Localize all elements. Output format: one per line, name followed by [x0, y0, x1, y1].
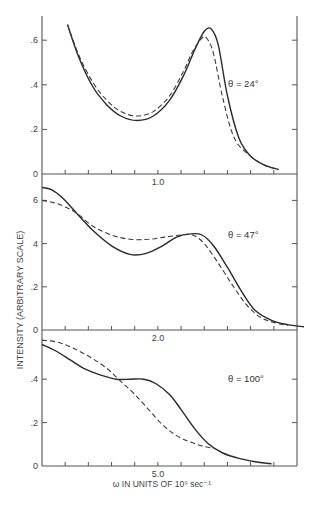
x-tick-label: 5.0: [152, 469, 165, 479]
y-tick-label: .4: [30, 80, 38, 90]
y-tick-label: 0: [33, 169, 38, 179]
y-tick-label: 0: [33, 325, 38, 335]
y-tick-label: .6: [30, 35, 38, 45]
panel-bottom: 5.00.2.4θ = 100°: [30, 330, 297, 479]
y-tick-label: .2: [30, 282, 38, 292]
solid-curve: [68, 25, 279, 170]
panel-top: 1.00.2.4.6θ = 24°: [30, 16, 297, 187]
y-tick-label: 4: [33, 239, 38, 249]
solid-curve: [42, 187, 304, 326]
figure-intensity-vs-omega: 1.00.2.4.6θ = 24°2.00.246θ = 47°5.00.2.4…: [0, 0, 313, 506]
x-tick-label: 1.0: [152, 177, 165, 187]
angle-annotation: θ = 24°: [228, 78, 259, 89]
panels: 1.00.2.4.6θ = 24°2.00.246θ = 47°5.00.2.4…: [30, 16, 304, 479]
y-axis-title: INTENSITY (ARBITRARY SCALE): [15, 231, 25, 370]
dashed-curve: [42, 200, 288, 325]
x-axis-title: ω IN UNITS OF 10⁹ sec⁻¹: [113, 479, 212, 489]
y-tick-label: .4: [30, 374, 38, 384]
panel-middle: 2.00.246θ = 47°: [30, 174, 304, 343]
solid-curve: [42, 345, 272, 464]
y-tick-label: .2: [30, 418, 38, 428]
angle-annotation: θ = 47°: [228, 229, 259, 240]
y-tick-label: .2: [30, 124, 38, 134]
y-tick-label: 6: [33, 195, 38, 205]
y-tick-label: 0: [33, 461, 38, 471]
x-tick-label: 2.0: [152, 333, 165, 343]
dashed-curve: [42, 340, 216, 449]
angle-annotation: θ = 100°: [228, 373, 264, 384]
